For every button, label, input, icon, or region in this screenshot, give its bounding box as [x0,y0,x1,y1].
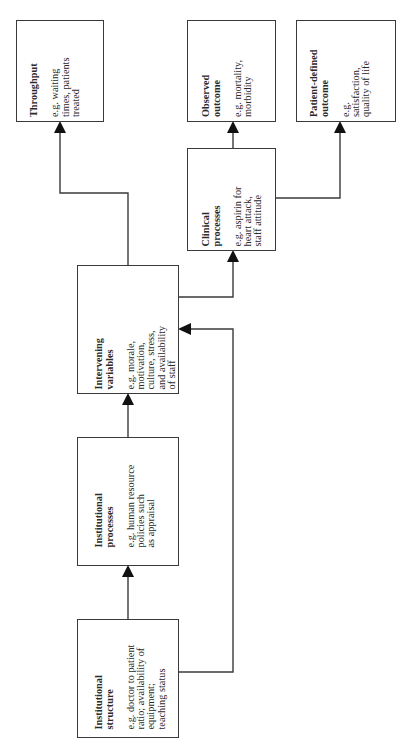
arrowhead-up-icon [227,250,239,262]
box-body: e.g. aspirin for heart attack, staff att… [232,153,263,246]
box-body: e.g. morale, motivation, culture, stress… [126,270,178,389]
box-title: Patient-defined outcome [309,25,330,117]
edge-intervening-to-throughput [60,132,128,265]
box-clinical-processes: Clinical processes e.g. aspirin for hear… [187,148,276,251]
box-intervening-variables: Intervening variables e.g. morale, motiv… [77,265,179,394]
box-title: Institutional processes [94,442,115,547]
box-body: e.g. doctor to patient ratio; availabili… [126,624,168,729]
box-body: e.g. human resource policies such as app… [126,442,157,547]
box-body: e.g. mortality, morbidity [232,25,253,117]
arrowhead-up-icon [122,565,134,577]
arrowhead-up-icon [227,121,239,133]
arrowhead-up-icon [122,393,134,405]
box-observed-outcome: Observed outcome e.g. mortality, morbidi… [187,20,276,122]
box-body: e.g. waiting times, patients treated [50,25,81,117]
box-institutional-structure: Institutional structure e.g. doctor to p… [77,619,179,738]
box-title: Institutional structure [94,624,115,729]
box-title: Clinical processes [200,153,221,246]
box-institutional-processes: Institutional processes e.g. human resou… [77,437,179,566]
box-title: Throughput [29,25,39,117]
edge-clinical-to-patient [275,132,340,198]
box-title: Intervening variables [94,270,115,389]
box-title: Observed outcome [200,25,221,117]
arrowhead-up-icon [334,121,346,133]
arrowhead-up-icon [54,121,66,133]
box-throughput: Throughput e.g. waiting times, patients … [16,20,104,122]
box-body: e.g. satisfaction, quality of life [341,25,372,117]
box-patient-defined-outcome: Patient-defined outcome e.g. satisfactio… [296,20,396,122]
